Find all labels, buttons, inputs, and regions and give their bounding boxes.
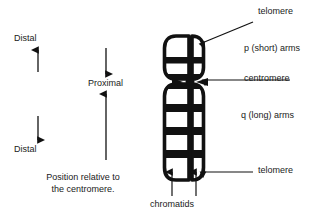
diagram-artwork (0, 0, 334, 219)
q-band-1 (160, 84, 208, 89)
q-band-2 (160, 104, 208, 112)
telomere-top-leader (202, 22, 253, 43)
left-panel-arrow-group (38, 48, 106, 160)
q-band-3 (160, 127, 208, 135)
p-band-1 (160, 57, 208, 64)
q-band-4 (160, 150, 208, 158)
metaphase-chromosome (160, 36, 208, 180)
chromosome-diagram: Distal Distal Proximal Position relative… (0, 0, 334, 219)
